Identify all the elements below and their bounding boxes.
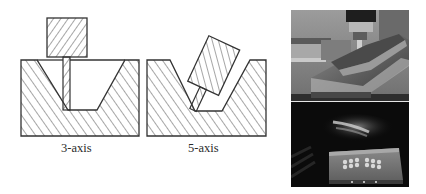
- three-axis-diagram: [21, 18, 139, 136]
- five-axis-tool-shank: [190, 87, 206, 112]
- machining-photos: [291, 10, 409, 187]
- top-machining-photo: [291, 10, 409, 101]
- three-axis-label: 3-axis: [61, 141, 92, 156]
- three-axis-tool-shank: [63, 57, 70, 110]
- axis-diagrams: [0, 0, 280, 194]
- five-axis-diagram: [147, 36, 266, 136]
- three-axis-tool-holder: [47, 18, 87, 57]
- five-axis-label: 5-axis: [188, 141, 219, 156]
- three-axis-workpiece: [21, 60, 139, 136]
- bottom-machining-photo: [291, 102, 409, 187]
- five-axis-tool-holder: [188, 36, 240, 96]
